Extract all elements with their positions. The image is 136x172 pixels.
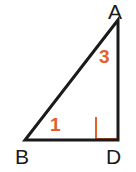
vertex-label-a: A: [108, 1, 122, 22]
right-angle-marker-at-d: [96, 117, 118, 139]
vertex-label-b: B: [15, 146, 29, 167]
geometry-figure: A B D 1 3: [0, 0, 136, 172]
angle-label-3: 3: [99, 47, 110, 66]
angle-label-1: 1: [50, 115, 61, 134]
triangle-abd: [25, 20, 118, 140]
vertex-label-d: D: [106, 146, 121, 167]
